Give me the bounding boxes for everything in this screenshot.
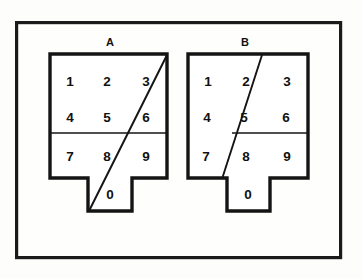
panel-b-key-8[interactable]: 8 xyxy=(242,149,250,164)
panel-b-key-5[interactable]: 5 xyxy=(240,110,248,125)
panel-a-label: A xyxy=(106,36,114,48)
panel-a-key-7[interactable]: 7 xyxy=(66,149,74,164)
panel-a-key-6[interactable]: 6 xyxy=(142,110,150,125)
panel-b-key-6[interactable]: 6 xyxy=(282,110,290,125)
panel-b-key-2[interactable]: 2 xyxy=(242,74,250,89)
panel-a-key-3[interactable]: 3 xyxy=(142,74,150,89)
panel-a-key-0[interactable]: 0 xyxy=(106,187,114,202)
panel-b-key-4[interactable]: 4 xyxy=(203,110,211,125)
panel-b-key-0[interactable]: 0 xyxy=(244,187,252,202)
panel-a-key-2[interactable]: 2 xyxy=(103,74,111,89)
panel-b-key-3[interactable]: 3 xyxy=(283,74,291,89)
panel-b-key-7[interactable]: 7 xyxy=(202,149,210,164)
panel-a-key-9[interactable]: 9 xyxy=(142,149,150,164)
keypad-comparison-figure: A 1 2 3 4 5 6 7 8 9 0 B 1 2 3 4 5 xyxy=(0,0,362,279)
figure-root: A 1 2 3 4 5 6 7 8 9 0 B 1 2 3 4 5 xyxy=(0,0,362,279)
panel-a-key-1[interactable]: 1 xyxy=(66,74,74,89)
panel-b-label: B xyxy=(241,36,249,48)
panel-a-key-5[interactable]: 5 xyxy=(103,110,111,125)
panel-a-key-4[interactable]: 4 xyxy=(66,110,74,125)
panel-b-key-1[interactable]: 1 xyxy=(204,74,212,89)
panel-b-key-9[interactable]: 9 xyxy=(283,149,291,164)
panel-a-key-8[interactable]: 8 xyxy=(103,149,111,164)
